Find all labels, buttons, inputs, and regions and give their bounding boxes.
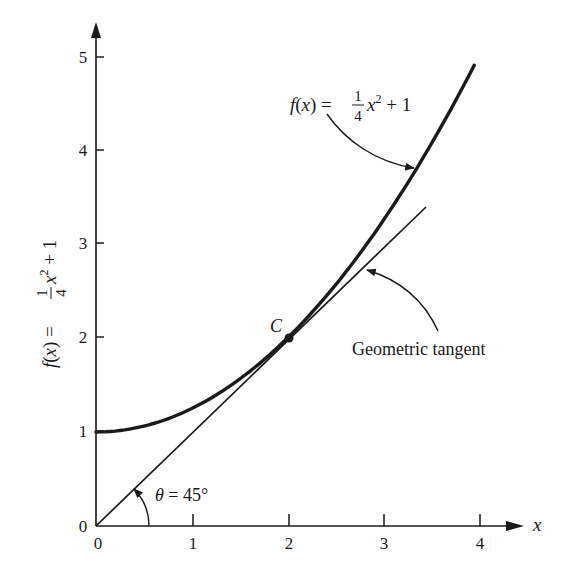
y-tick-4: 4 [79,141,88,160]
y-tick-2: 2 [79,328,88,347]
x-axis-arrow-icon [506,521,524,531]
y-tick-0: 0 [79,517,88,536]
svg-text:x2 + 1: x2 + 1 [37,240,60,285]
tangent-label-arrow [367,270,438,331]
angle-arc [134,489,149,526]
curve-label-frac-num: 1 [354,88,362,104]
chart: 1 2 3 4 5 0 f(x) = 1 4 x2 + 1 0 1 2 3 4 … [0,0,571,573]
theta-label: θ = 45° [155,485,208,505]
curve-label-frac-den: 4 [354,108,362,124]
y-axis-title: f(x) = 1 4 x2 + 1 [34,240,69,368]
x-tick-3: 3 [380,534,389,553]
point-c-label: C [270,316,283,336]
curve-label: f(x) = 1 4 x2 + 1 [290,88,411,124]
x-axis: 0 1 2 3 4 x [94,514,542,553]
y-tick-1: 1 [79,422,88,441]
svg-text:x2 + 1: x2 + 1 [366,92,411,115]
y-title-frac-den: 4 [53,289,69,297]
y-tick-5: 5 [79,48,88,67]
curve-label-arrow [327,114,414,168]
tangent-label: Geometric tangent [352,339,485,359]
y-tick-3: 3 [79,234,88,253]
y-axis: 1 2 3 4 5 0 [79,22,104,536]
svg-text:f(x) =: f(x) = [290,94,332,116]
function-curve [96,65,474,432]
x-tick-4: 4 [476,534,485,553]
svg-text:f(x) =: f(x) = [39,326,61,368]
x-tick-0: 0 [94,534,103,553]
point-c-marker [285,334,294,343]
x-tick-1: 1 [189,534,198,553]
y-title-frac-num: 1 [34,289,50,297]
y-axis-arrow-icon [91,22,101,38]
x-axis-label: x [532,514,542,535]
tangent-line [96,207,426,526]
x-tick-2: 2 [285,534,294,553]
